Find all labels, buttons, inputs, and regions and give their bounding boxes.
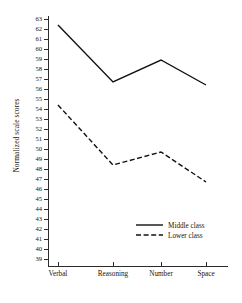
y-tick-label: 59	[35, 55, 42, 62]
x-tick-label: Space	[197, 270, 214, 278]
y-tick-label: 41	[35, 235, 42, 242]
y-tick-label: 39	[35, 255, 42, 262]
y-tick-label: 62	[35, 25, 42, 32]
legend-label-middle-class: Middle class	[168, 222, 205, 230]
x-tick-label: Verbal	[49, 270, 68, 278]
y-tick-label: 50	[35, 145, 42, 152]
y-tick-label: 53	[35, 115, 42, 122]
y-tick-label: 56	[35, 85, 42, 92]
series-line-middle-class	[58, 25, 206, 85]
y-tick-label: 40	[35, 245, 42, 252]
y-tick-label: 60	[35, 45, 42, 52]
y-axis-ticks: 3940414243444546474849505152535455565758…	[35, 15, 48, 262]
y-tick-label: 43	[35, 215, 42, 222]
x-tick-label: Number	[149, 270, 173, 278]
y-tick-label: 52	[35, 125, 42, 132]
y-tick-label: 47	[35, 175, 42, 182]
chart-legend: Middle classLower class	[136, 222, 205, 240]
line-chart: Normalized scale scores 3940414243444546…	[0, 0, 242, 303]
y-tick-label: 55	[35, 95, 42, 102]
y-tick-label: 46	[35, 185, 42, 192]
y-tick-label: 58	[35, 65, 42, 72]
x-tick-label: Reasoning	[98, 270, 129, 278]
series-line-lower-class	[58, 105, 206, 182]
legend-label-lower-class: Lower class	[168, 232, 203, 240]
y-tick-label: 42	[35, 225, 42, 232]
chart-canvas: 3940414243444546474849505152535455565758…	[0, 0, 242, 303]
data-series-group	[58, 25, 206, 182]
y-tick-label: 44	[35, 205, 42, 212]
x-axis-ticks: VerbalReasoningNumberSpace	[49, 262, 215, 278]
y-tick-label: 45	[35, 195, 42, 202]
y-tick-label: 63	[35, 15, 42, 22]
y-tick-label: 49	[35, 155, 42, 162]
y-tick-label: 48	[35, 165, 42, 172]
y-tick-label: 54	[35, 105, 42, 112]
y-tick-label: 61	[35, 35, 42, 42]
y-tick-label: 57	[35, 75, 42, 82]
y-tick-label: 51	[35, 135, 42, 142]
